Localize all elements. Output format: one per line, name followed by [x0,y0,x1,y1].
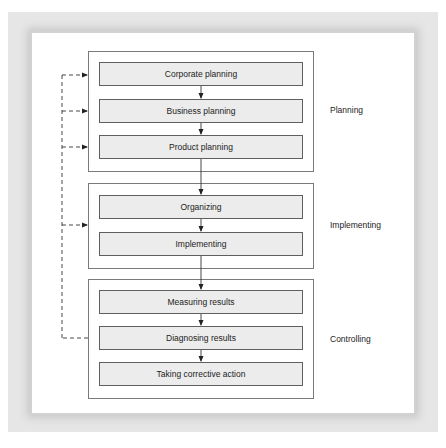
phase-label-planning: Planning [330,105,363,115]
step-business-planning: Business planning [99,99,303,123]
phase-label-implementing: Implementing [330,220,381,230]
step-product-planning: Product planning [99,135,303,159]
phase-label-controlling: Controlling [330,334,371,344]
step-taking-corrective-action: Taking corrective action [99,362,303,386]
step-implementing: Implementing [99,232,303,256]
step-corporate-planning: Corporate planning [99,62,303,86]
step-measuring-results: Measuring results [99,290,303,314]
step-diagnosing-results: Diagnosing results [99,326,303,350]
step-organizing: Organizing [99,195,303,219]
